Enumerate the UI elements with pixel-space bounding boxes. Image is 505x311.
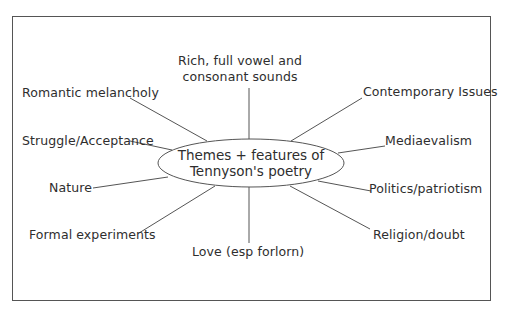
branch-religion-doubt: Religion/doubt [373,227,465,243]
branch-sounds: Rich, full vowel and consonant sounds [178,53,302,85]
line-formal [139,186,215,233]
line-nature [93,177,168,188]
branch-formal-experiments: Formal experiments [29,227,156,243]
branch-politics-patriotism: Politics/patriotism [369,181,482,197]
line-mediaevalism [338,146,385,153]
branch-mediaevalism: Mediaevalism [385,133,472,149]
branch-nature: Nature [49,180,92,196]
branch-love: Love (esp forlorn) [192,244,304,260]
central-topic: Themes + features of Tennyson's poetry [158,139,344,187]
central-topic-line2: Tennyson's poetry [190,163,312,179]
branch-sounds-line1: Rich, full vowel and [178,53,302,69]
branch-contemporary-issues: Contemporary Issues [363,84,498,100]
central-topic-line1: Themes + features of [178,147,325,163]
line-religion [290,186,370,229]
branch-struggle-acceptance: Struggle/Acceptance [22,133,154,149]
line-contemporary [291,98,362,141]
branch-romantic-melancholy: Romantic melancholy [22,85,159,101]
branch-sounds-line2: consonant sounds [178,69,302,85]
